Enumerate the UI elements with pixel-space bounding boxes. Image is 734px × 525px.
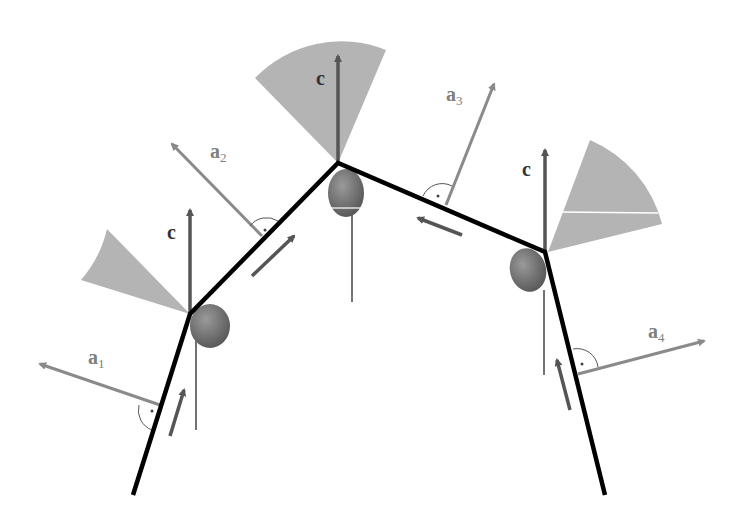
direction-arrow-3 [418,218,462,235]
sector-divider [560,212,658,213]
cone-sector-3 [548,140,662,252]
label-c-3: c [522,158,531,180]
direction-arrow-4 [557,360,570,410]
right-angle-mark-2 [250,218,278,226]
label-a4: a4 [648,320,665,345]
cone-sector-2 [255,41,386,163]
right-angle-mark-1 [138,405,152,430]
right-angle-mark-4 [573,349,598,367]
diagram-canvas: c c c a1 a2 a3 a4 [0,0,734,525]
joint-2 [328,169,364,217]
a4-arrow [578,341,704,374]
label-c-2: c [316,67,325,89]
label-a2: a2 [210,140,227,165]
kinematic-chain-diagram: c c c a1 a2 a3 a4 [0,0,734,525]
label-c-1: c [167,221,176,243]
direction-arrow-1 [170,390,184,436]
label-a3: a3 [446,83,463,108]
right-angle-mark-3 [423,184,452,196]
label-a1: a1 [88,346,105,371]
